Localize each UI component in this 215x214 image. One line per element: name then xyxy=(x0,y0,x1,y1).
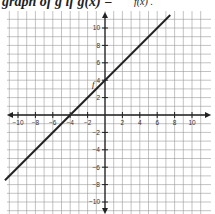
x-tick-label: 2 xyxy=(121,119,125,126)
x-tick-label: 10 xyxy=(188,119,196,126)
function-label: f xyxy=(92,79,96,89)
y-tick-label: −2 xyxy=(93,129,101,136)
x-tick-label: 6 xyxy=(155,119,159,126)
x-tick-label: −4 xyxy=(66,119,74,126)
axes xyxy=(7,12,211,214)
x-tick-label: −8 xyxy=(32,119,40,126)
grid-lines xyxy=(7,11,211,214)
y-tick-label: 6 xyxy=(96,59,100,66)
y-tick-label: 4 xyxy=(96,77,100,84)
y-tick-label: −4 xyxy=(93,146,101,153)
x-tick-label: −2 xyxy=(84,119,92,126)
x-tick-label: 8 xyxy=(173,119,177,126)
y-tick-label: −10 xyxy=(89,198,100,205)
y-tick-label: 2 xyxy=(96,94,100,101)
y-tick-label: −6 xyxy=(93,164,101,171)
y-tick-label: 10 xyxy=(93,24,101,31)
x-axis-right-arrow-icon xyxy=(205,112,211,118)
y-axis-up-arrow-icon xyxy=(102,12,108,18)
x-tick-label: −10 xyxy=(12,119,23,126)
x-tick-label: 4 xyxy=(138,119,142,126)
y-tick-label: −8 xyxy=(93,181,101,188)
x-tick-label: −6 xyxy=(49,119,57,126)
coordinate-plane: −10−8−6−4−2246810108642−2−4−6−8−10 f xyxy=(0,0,215,214)
x-axis-left-arrow-icon xyxy=(7,112,13,118)
y-tick-label: 8 xyxy=(96,42,100,49)
